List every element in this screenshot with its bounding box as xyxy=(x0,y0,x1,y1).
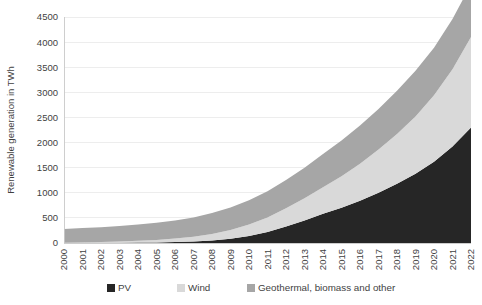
y-tick-label: 4500 xyxy=(37,11,58,22)
x-tick-label: 2011 xyxy=(262,249,273,269)
x-tick-label: 2002 xyxy=(95,249,106,270)
x-tick-label: 2004 xyxy=(132,249,143,270)
renewable-generation-chart: 050010001500200025003000350040004500 200… xyxy=(0,0,482,305)
x-tick-label: 2020 xyxy=(428,249,439,270)
legend-label: Geothermal, biomass and other xyxy=(258,282,396,293)
x-tick-label: 2001 xyxy=(77,249,88,270)
x-tick-label: 2005 xyxy=(151,249,162,270)
x-tick-label: 2013 xyxy=(299,249,310,270)
y-tick-label: 1500 xyxy=(37,162,58,173)
y-tick-label: 2500 xyxy=(37,112,58,123)
x-tick-label: 2007 xyxy=(188,249,199,270)
y-axis-title: Renewable generation in TWh xyxy=(5,66,16,194)
x-tick-label: 2016 xyxy=(354,249,365,270)
legend-swatch xyxy=(107,284,115,292)
x-tick-label: 2022 xyxy=(465,249,476,270)
x-tick-label: 2017 xyxy=(373,249,384,270)
y-tick-label: 3000 xyxy=(37,87,58,98)
x-tick-label: 2003 xyxy=(114,249,125,270)
x-tick-label: 2019 xyxy=(410,249,421,270)
y-axis-tick-labels: 050010001500200025003000350040004500 xyxy=(37,11,58,248)
y-tick-label: 2000 xyxy=(37,137,58,148)
x-tick-label: 2008 xyxy=(206,249,217,270)
legend-swatch xyxy=(177,284,185,292)
y-tick-label: 3500 xyxy=(37,62,58,73)
x-tick-label: 2010 xyxy=(243,249,254,270)
y-tick-label: 1000 xyxy=(37,187,58,198)
y-axis-title-group: Renewable generation in TWh xyxy=(5,66,16,194)
x-tick-label: 2009 xyxy=(225,249,236,270)
x-tick-label: 2006 xyxy=(169,249,180,270)
legend: PVWindGeothermal, biomass and other xyxy=(107,282,396,293)
legend-label: Wind xyxy=(188,282,210,293)
legend-label: PV xyxy=(118,282,132,293)
x-tick-label: 2021 xyxy=(447,249,458,270)
x-tick-label: 2018 xyxy=(391,249,402,270)
x-tick-label: 2000 xyxy=(58,249,69,270)
y-tick-label: 0 xyxy=(53,237,58,248)
area-series-group xyxy=(64,0,471,243)
x-tick-label: 2012 xyxy=(280,249,291,270)
y-tick-label: 4000 xyxy=(37,37,58,48)
x-tick-label: 2014 xyxy=(317,249,328,270)
x-tick-label: 2015 xyxy=(336,249,347,270)
legend-swatch xyxy=(247,284,255,292)
y-tick-label: 500 xyxy=(42,212,58,223)
x-axis-tick-labels: 2000200120022003200420052006200720082009… xyxy=(58,249,476,270)
chart-canvas: 050010001500200025003000350040004500 200… xyxy=(0,0,482,305)
